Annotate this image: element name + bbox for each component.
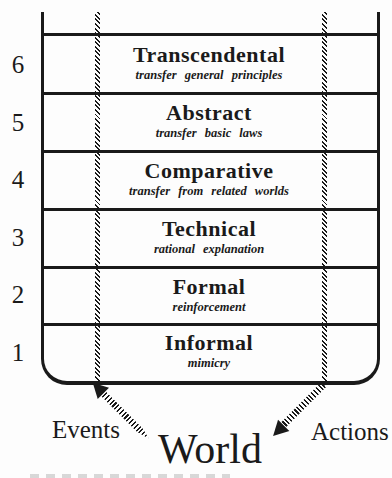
level-subtitle: mimicry	[188, 355, 230, 371]
level-subtitle: transfer general principles	[136, 67, 283, 83]
level-number: 4	[2, 167, 34, 192]
level-subtitle: rational explanation	[154, 241, 264, 257]
level-subtitle: transfer basic laws	[156, 125, 263, 141]
events-label: Events	[52, 417, 120, 442]
level-number: 2	[2, 282, 34, 307]
level-subtitle: reinforcement	[173, 299, 246, 315]
world-label: World	[158, 428, 262, 470]
actions-label: Actions	[311, 419, 389, 444]
levels-of-learning-diagram: 6 5 4 3 2 1 Transcendental transfer gene…	[0, 0, 392, 478]
level-number: 5	[2, 110, 34, 135]
level-number: 1	[2, 340, 34, 365]
level-title: Transcendental	[133, 43, 285, 66]
events-channel-line	[95, 12, 100, 382]
level-number: 6	[2, 52, 34, 77]
actions-channel-line	[322, 12, 327, 382]
level-number: 3	[2, 225, 34, 250]
level-subtitle: transfer from related worlds	[129, 183, 289, 199]
level-title: Technical	[162, 217, 256, 240]
level-title: Comparative	[145, 159, 274, 182]
level-title: Informal	[165, 331, 253, 354]
cropped-caption-artifact	[30, 474, 230, 478]
level-title: Formal	[173, 275, 246, 298]
level-title: Abstract	[166, 101, 252, 124]
